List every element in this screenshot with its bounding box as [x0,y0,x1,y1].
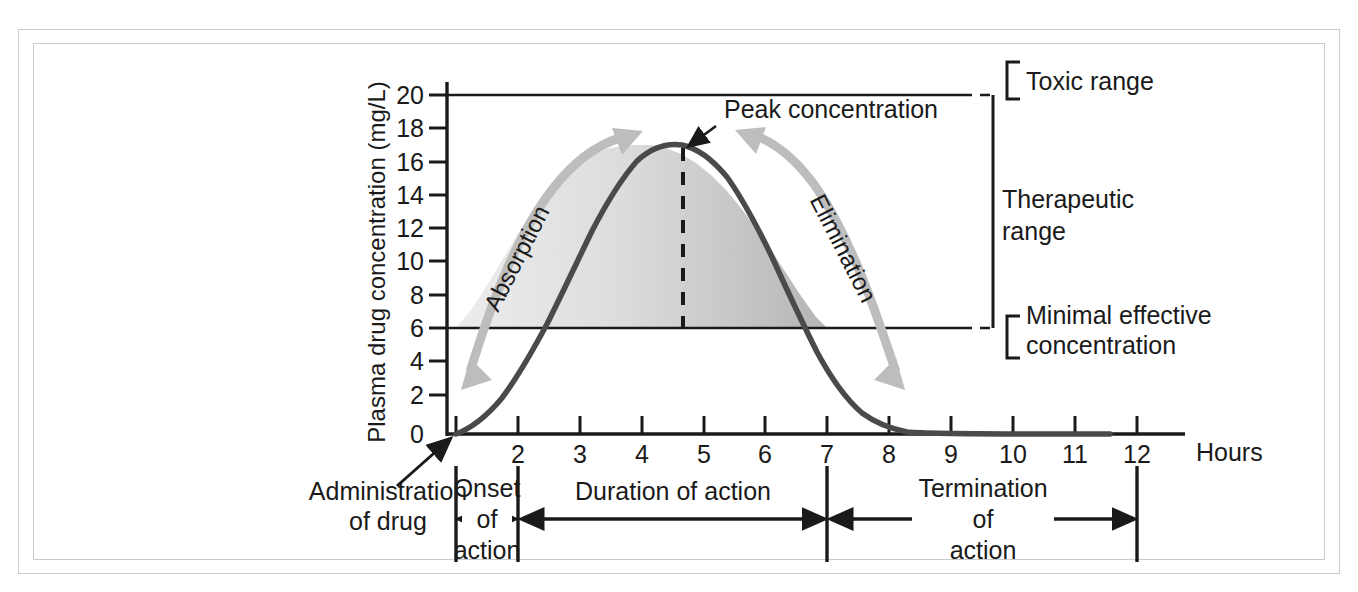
elimination-label: Elimination [805,190,882,307]
y-tick-label-6: 6 [410,314,424,342]
x-tick-label-8: 8 [882,440,896,468]
y-tick-label-2: 2 [410,381,424,409]
x-axis-tick-labels: 2 3 4 5 6 7 8 9 10 11 12 [511,440,1151,468]
x-tick-label-10: 10 [999,440,1027,468]
therapeutic-range-label-line2: range [1002,217,1066,245]
peak-concentration-label: Peak concentration [724,95,938,123]
termination-of-action-line1: Termination [918,474,1047,502]
y-axis-title: Plasma drug concentration (mg/L) [363,81,390,443]
x-tick-label-7: 7 [820,440,834,468]
y-tick-label-14: 14 [396,181,424,209]
x-tick-label-3: 3 [573,440,587,468]
termination-of-action-line2: of [973,505,994,533]
phase-termination-of-action: Termination of action [831,474,1134,564]
minimal-effective-concentration-bracket [1007,316,1020,358]
y-tick-label-20: 20 [396,81,424,109]
x-tick-label-6: 6 [758,440,772,468]
duration-of-action-line1: Duration of action [575,477,771,505]
x-tick-label-4: 4 [635,440,649,468]
x-tick-label-2: 2 [511,440,525,468]
phase-duration-of-action: Duration of action [522,477,824,519]
minimal-effective-concentration-label-line2: concentration [1026,331,1176,359]
onset-of-action-line3: action [454,536,521,564]
y-tick-label-10: 10 [396,247,424,275]
pharmacokinetics-chart: 20 18 16 14 12 10 8 6 4 2 0 Plasma drug … [0,0,1358,592]
y-axis-ticks [429,95,447,395]
x-tick-label-5: 5 [697,440,711,468]
y-tick-label-8: 8 [410,281,424,309]
onset-of-action-line1: Onset [454,474,521,502]
x-tick-label-9: 9 [944,440,958,468]
y-tick-label-4: 4 [410,347,424,375]
x-tick-label-11: 11 [1062,440,1088,468]
y-tick-label-0: 0 [410,420,424,448]
termination-of-action-line3: action [950,536,1017,564]
y-tick-label-18: 18 [396,114,424,142]
administration-label-line1: Administration [309,477,467,505]
peak-annotation-leader [689,126,716,146]
x-tick-label-12: 12 [1123,440,1151,468]
y-tick-label-16: 16 [396,148,424,176]
toxic-range-label: Toxic range [1026,67,1154,95]
minimal-effective-concentration-label-line1: Minimal effective [1026,301,1212,329]
figure-root: 20 18 16 14 12 10 8 6 4 2 0 Plasma drug … [0,0,1358,592]
phase-onset-of-action: Onset of action [454,474,521,564]
toxic-range-bracket [1007,62,1020,99]
onset-of-action-line2: of [477,505,498,533]
therapeutic-range-label-line1: Therapeutic [1002,185,1134,213]
y-axis-tick-labels: 20 18 16 14 12 10 8 6 4 2 0 [396,81,424,448]
y-tick-label-12: 12 [396,214,424,242]
administration-label-line2: of drug [349,507,427,535]
x-axis-title: Hours [1196,438,1263,466]
